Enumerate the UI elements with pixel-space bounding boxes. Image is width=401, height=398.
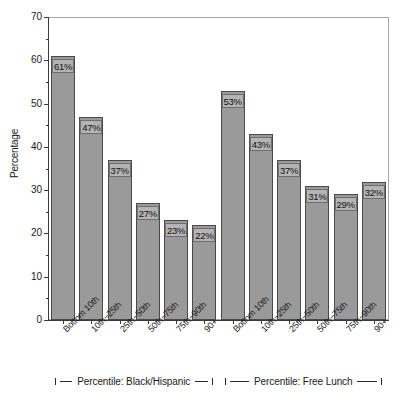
y-tick-label: 40 — [31, 142, 42, 152]
bar-value-label: 61% — [52, 59, 74, 73]
bar-value-label: 47% — [80, 120, 102, 134]
caption-bracket-right — [381, 378, 382, 385]
bar-value-label: 23% — [165, 223, 187, 237]
bar: 53% — [221, 91, 245, 320]
y-tick-label: 20 — [31, 228, 42, 238]
group-caption-label: Percentile: Black/Hispanic — [76, 376, 191, 387]
y-tick-label: 30 — [31, 185, 42, 195]
y-tick-label: 60 — [31, 55, 42, 65]
y-tick-label: 10 — [31, 272, 42, 282]
bar: 43% — [249, 134, 273, 320]
caption-rule-right — [357, 381, 377, 382]
bar-value-label: 43% — [250, 137, 272, 151]
caption-bracket-right — [212, 378, 213, 385]
bar-value-label: 29% — [335, 197, 357, 211]
caption-bracket-left — [225, 378, 226, 385]
y-axis-title: Percentage — [9, 109, 20, 199]
caption-rule-left — [60, 381, 72, 382]
bar: 37% — [108, 160, 132, 320]
bar: 32% — [362, 182, 386, 321]
bar: 61% — [51, 56, 75, 320]
bar-value-label: 22% — [193, 228, 215, 242]
group-caption-free-lunch: Percentile: Free Lunch — [225, 374, 383, 388]
y-tick-label: 50 — [31, 99, 42, 109]
bar: 37% — [277, 160, 301, 320]
bar-chart: Percentage 010203040506070 61%47%37%27%2… — [0, 0, 401, 398]
bar: 47% — [79, 117, 103, 320]
y-tick-label: 70 — [31, 12, 42, 22]
group-caption-label: Percentile: Free Lunch — [253, 376, 353, 387]
y-tick-label: 0 — [36, 315, 42, 325]
bar-value-label: 37% — [278, 163, 300, 177]
bar-value-label: 37% — [109, 163, 131, 177]
caption-rule-left — [230, 381, 250, 382]
bar-value-label: 27% — [137, 206, 159, 220]
bar: 29% — [334, 194, 358, 320]
bar-value-label: 32% — [363, 185, 385, 199]
caption-bracket-left — [55, 378, 56, 385]
group-caption-black-hispanic: Percentile: Black/Hispanic — [55, 374, 213, 388]
bar-value-label: 31% — [306, 189, 328, 203]
bar: 31% — [305, 186, 329, 320]
bar-value-label: 53% — [222, 94, 244, 108]
caption-rule-right — [195, 381, 207, 382]
bars-layer: 61%47%37%27%23%22%53%43%37%31%29%32% — [49, 17, 388, 320]
